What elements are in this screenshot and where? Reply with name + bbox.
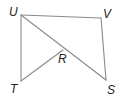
segment-tr <box>21 50 63 81</box>
label-r: R <box>58 52 67 66</box>
segment-vs <box>101 18 106 80</box>
label-u: U <box>9 5 18 19</box>
label-t: T <box>10 82 19 96</box>
segment-uv <box>21 15 101 18</box>
geometry-diagram: U V T S R <box>0 0 120 101</box>
segment-us <box>21 15 106 80</box>
segments <box>21 15 106 81</box>
label-s: S <box>107 83 115 97</box>
label-v: V <box>103 7 112 21</box>
